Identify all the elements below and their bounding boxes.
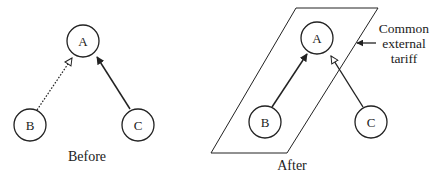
callout-line-2: external — [382, 36, 426, 51]
customs-union-region — [211, 8, 378, 153]
node-a: A — [67, 25, 99, 57]
node-b-label: B — [26, 118, 35, 133]
edge-c-to-a-hollow — [331, 56, 363, 107]
node-a-label: A — [78, 34, 88, 49]
after-panel: A B C Common external tariff After — [211, 8, 429, 173]
after-caption: After — [277, 158, 307, 173]
edge-b-to-a-solid — [272, 54, 307, 107]
edge-b-to-a-dotted — [37, 58, 72, 110]
node-b-label: B — [261, 115, 270, 130]
edge-c-to-a-solid — [97, 57, 130, 109]
node-a: A — [301, 22, 333, 54]
callout-line-1: Common — [379, 21, 430, 36]
node-c: C — [355, 106, 387, 138]
node-b: B — [249, 106, 281, 138]
trade-diagram: A B C Before A B C — [0, 0, 436, 178]
node-c-label: C — [134, 118, 143, 133]
callout-line-3: tariff — [391, 51, 418, 66]
before-caption: Before — [68, 149, 106, 164]
callout-label: Common external tariff — [379, 21, 430, 66]
node-c-label: C — [367, 115, 376, 130]
before-panel: A B C Before — [14, 25, 154, 164]
node-b: B — [14, 109, 46, 141]
node-c: C — [122, 109, 154, 141]
node-a-label: A — [312, 31, 322, 46]
